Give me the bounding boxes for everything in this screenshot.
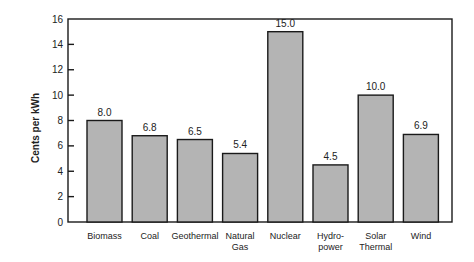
x-category-label: Coal (140, 231, 159, 241)
y-tick-label: 8 (57, 115, 63, 126)
x-category-label: Nuclear (270, 231, 301, 241)
bar-value-label: 10.0 (366, 81, 386, 92)
bar-value-label: 4.5 (324, 151, 338, 162)
y-tick-label: 12 (52, 64, 64, 75)
x-category-label: Thermal (359, 242, 392, 252)
x-category-label: Natural (226, 231, 255, 241)
x-category-label: Solar (365, 231, 386, 241)
x-category-label: Biomass (87, 231, 122, 241)
y-tick-label: 0 (57, 217, 63, 228)
bar (87, 121, 122, 223)
bar-value-label: 6.5 (188, 126, 202, 137)
bar-value-label: 6.8 (143, 122, 157, 133)
bar-value-label: 15.0 (276, 18, 296, 29)
plot-frame (68, 19, 452, 222)
chart-canvas: 02468101214168.0Biomass6.8Coal6.5Geother… (0, 0, 474, 262)
bar (358, 95, 393, 222)
y-tick-label: 14 (52, 39, 64, 50)
y-tick-label: 6 (57, 140, 63, 151)
bar (268, 32, 303, 222)
x-category-label: Geothermal (171, 231, 218, 241)
y-tick-label: 10 (52, 90, 64, 101)
x-category-label: Hydro- (317, 231, 344, 241)
x-category-label: Wind (411, 231, 432, 241)
bar (403, 134, 438, 222)
y-tick-label: 16 (52, 14, 64, 25)
bar-value-label: 8.0 (98, 107, 112, 118)
bar (132, 136, 167, 222)
bar (313, 165, 348, 222)
bar (223, 153, 258, 222)
bar (177, 140, 212, 222)
bar-value-label: 5.4 (233, 139, 247, 150)
y-tick-label: 4 (57, 166, 63, 177)
y-tick-label: 2 (57, 191, 63, 202)
bar-value-label: 6.9 (414, 120, 428, 131)
x-category-label: Gas (232, 242, 249, 252)
x-category-label: power (318, 242, 343, 252)
